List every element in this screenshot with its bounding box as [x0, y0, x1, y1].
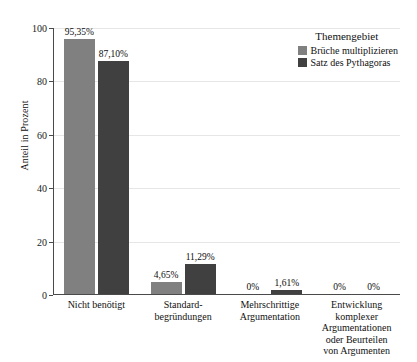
legend-item-label: Brüche multiplizieren	[311, 45, 398, 56]
legend-items: Brüche multiplizierenSatz des Pythagoras	[298, 45, 398, 68]
bar	[98, 61, 129, 294]
y-axis-tick-label: 60	[37, 129, 47, 140]
bar-value-label: 0%	[333, 282, 346, 292]
y-axis-line	[53, 28, 54, 295]
y-axis-tick-mark	[49, 81, 53, 82]
y-axis-tick-label: 20	[37, 236, 47, 247]
x-axis-line	[53, 294, 400, 295]
legend-color-swatch	[298, 58, 307, 67]
y-axis-tick-label: 100	[32, 23, 47, 34]
x-axis-category-label: EntwicklungkomplexerArgumentationenoder …	[313, 299, 400, 357]
bar-value-label: 11,29%	[186, 252, 215, 262]
y-axis-title: Anteil in Prozent	[19, 66, 30, 206]
gridline	[54, 28, 400, 29]
x-axis-category-label: Standard-begründungen	[140, 299, 227, 322]
y-axis-tick-mark	[49, 28, 53, 29]
legend-item[interactable]: Satz des Pythagoras	[298, 57, 398, 68]
x-axis-category-label: MehrschrittigeArgumentation	[227, 299, 314, 322]
legend-title: Themengebiet	[298, 30, 398, 42]
bar-value-label: 0%	[247, 282, 260, 292]
y-axis-tick-label: 0	[42, 290, 47, 301]
bar	[271, 290, 302, 294]
bar	[64, 39, 95, 294]
bar-value-label: 0%	[367, 282, 380, 292]
legend-item-label: Satz des Pythagoras	[311, 57, 391, 68]
bar-value-label: 95,35%	[65, 27, 94, 37]
bar	[185, 264, 216, 294]
y-axis-tick-label: 80	[37, 76, 47, 87]
plot-area: 020406080100 95,35%87,10%4,65%11,29%0%1,…	[53, 28, 400, 295]
x-axis-category-label: Nicht benötigt	[53, 299, 140, 311]
y-axis-tick-mark	[49, 295, 53, 296]
legend-item[interactable]: Brüche multiplizieren	[298, 45, 398, 56]
y-axis-tick-mark	[49, 242, 53, 243]
bar-value-label: 4,65%	[154, 270, 179, 280]
y-axis-tick-label: 40	[37, 183, 47, 194]
y-axis-tick-mark	[49, 188, 53, 189]
legend: Themengebiet Brüche multiplizierenSatz d…	[298, 30, 398, 69]
y-axis-tick-mark	[49, 135, 53, 136]
bar-value-label: 87,10%	[99, 49, 128, 59]
bar-chart-figure: Anteil in Prozent 020406080100 95,35%87,…	[0, 0, 417, 362]
bar-value-label: 1,61%	[275, 278, 300, 288]
bar	[151, 282, 182, 294]
legend-color-swatch	[298, 46, 307, 55]
